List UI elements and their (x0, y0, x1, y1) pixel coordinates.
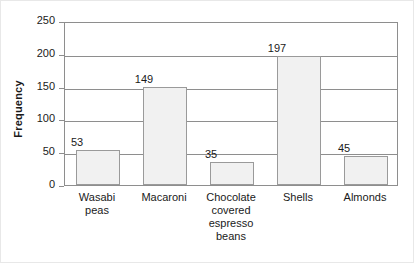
y-tick-label-0: 0 (49, 178, 55, 190)
y-tick-label-50: 50 (43, 145, 55, 157)
y-axis-title: Frequency (9, 64, 27, 154)
bar-value-almonds: 45 (322, 142, 366, 154)
x-label-line-2: peas (57, 204, 137, 217)
plot-area (64, 22, 398, 186)
bar-chocolate-covered-espresso-beans (210, 162, 254, 185)
y-tick-label-150: 150 (37, 80, 55, 92)
x-label-line-2: covered (191, 204, 271, 217)
bar-value-shells: 197 (255, 42, 299, 54)
y-tick-label-250: 250 (37, 14, 55, 26)
x-label-almonds: Almonds (325, 191, 405, 204)
bar-value-chocolate-covered-espresso-beans: 35 (189, 148, 233, 160)
y-axis-title-text: Frequency (12, 80, 24, 137)
bar-macaroni (143, 87, 187, 185)
gridline-150 (65, 89, 397, 90)
bar-chart-figure: Frequency 250 200 150 100 50 0 (0, 0, 414, 263)
bar-shells (277, 56, 321, 185)
y-tick-mark-0 (59, 186, 64, 187)
bar-value-macaroni: 149 (122, 73, 166, 85)
y-tick-label-100: 100 (37, 112, 55, 124)
x-label-line-1: Almonds (325, 191, 405, 204)
gridline-100 (65, 121, 397, 122)
bar-almonds (344, 156, 388, 186)
bar-wasabi-peas (76, 150, 120, 185)
bar-value-wasabi-peas: 53 (55, 136, 99, 148)
x-label-line-4: beans (191, 230, 271, 243)
y-tick-label-200: 200 (37, 47, 55, 59)
gridline-200 (65, 56, 397, 57)
x-label-line-3: espresso (191, 217, 271, 230)
